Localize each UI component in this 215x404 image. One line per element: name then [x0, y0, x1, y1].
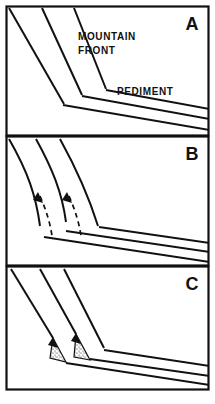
- panel-c: C: [7, 267, 210, 390]
- pediment-evolution-figure: A MOUNTAIN FRONT PEDIMENT B: [0, 0, 215, 404]
- pediment-label: PEDIMENT: [117, 86, 173, 97]
- mountain-front-label-line2: FRONT: [78, 45, 115, 56]
- panel-b-letter: B: [186, 144, 199, 164]
- panel-c-letter: C: [186, 274, 199, 294]
- figure-canvas: A MOUNTAIN FRONT PEDIMENT B: [0, 0, 215, 404]
- panel-b: B: [7, 137, 210, 266]
- panel-a: A MOUNTAIN FRONT PEDIMENT: [7, 7, 210, 136]
- panel-a-frame: [7, 7, 209, 136]
- panel-a-letter: A: [186, 14, 199, 34]
- mountain-front-label-line1: MOUNTAIN: [78, 31, 136, 42]
